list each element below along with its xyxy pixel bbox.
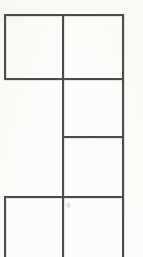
rule-second	[4, 78, 124, 80]
rule-top	[4, 14, 124, 16]
faint-speck-artifact	[66, 202, 71, 209]
right-rule	[122, 14, 124, 257]
cell-row4-left	[4, 196, 62, 257]
left-rule-upper	[4, 14, 6, 80]
cell-row1-left	[4, 14, 62, 78]
cell-row4-right	[62, 196, 122, 257]
scanned-page	[0, 0, 143, 257]
left-rule-lower	[4, 196, 6, 257]
cell-row2-right	[62, 78, 122, 136]
center-rule	[62, 14, 64, 257]
rule-third	[62, 136, 124, 138]
cell-row1-right	[62, 14, 122, 78]
cell-row3-right	[62, 136, 122, 196]
rule-fourth	[4, 196, 124, 198]
left-column-gap	[4, 78, 62, 196]
